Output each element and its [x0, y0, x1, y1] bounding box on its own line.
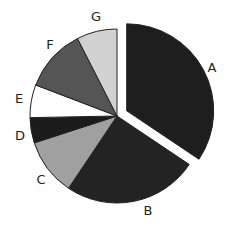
pie-chart	[0, 0, 234, 230]
slice-label-b: B	[144, 204, 153, 217]
slice-label-d: D	[15, 129, 25, 142]
slice-label-g: G	[91, 10, 101, 23]
slice-label-f: F	[46, 38, 53, 51]
slice-label-c: C	[36, 173, 45, 186]
slice-label-e: E	[15, 92, 23, 105]
pie-slices	[30, 24, 214, 203]
slice-label-a: A	[208, 61, 217, 74]
